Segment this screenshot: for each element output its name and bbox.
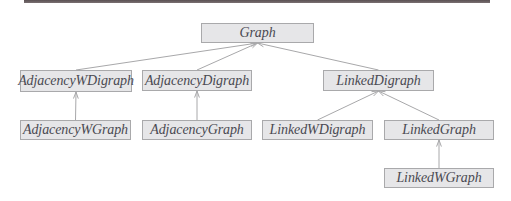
node-adjacency-w-graph: AdjacencyWGraph [20,120,131,140]
node-adjacency-digraph: AdjacencyDigraph [142,70,252,91]
node-adjacency-graph: AdjacencyGraph [142,120,252,140]
node-linked-graph: LinkedGraph [384,120,494,140]
edge-linked-graph-to-linked-digraph [379,91,440,120]
node-graph: Graph [201,23,314,43]
edge-linked-w-digraph-to-linked-digraph [318,91,379,120]
node-linked-w-digraph: LinkedWDigraph [262,120,373,140]
edge-adjacency-w-digraph-to-graph [76,43,258,70]
node-linked-w-graph: LinkedWGraph [384,168,494,188]
edge-linked-digraph-to-graph [258,43,379,70]
node-linked-digraph: LinkedDigraph [323,70,434,91]
edge-adjacency-w-graph-to-adjacency-w-digraph [76,92,77,120]
node-adjacency-w-digraph: AdjacencyWDigraph [20,70,132,92]
